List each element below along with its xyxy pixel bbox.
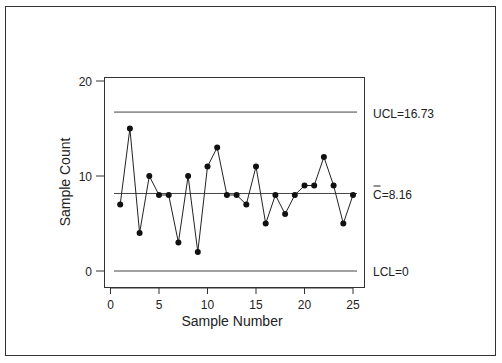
data-point [137, 230, 143, 236]
x-axis: 0510152025 [107, 288, 360, 312]
y-axis-label: Sample Count [57, 138, 73, 227]
data-point [146, 173, 152, 179]
ucl-label: UCL=16.73 [373, 107, 434, 121]
data-point [282, 211, 288, 217]
y-axis: 01020 [79, 75, 105, 279]
y-tick-label: 10 [79, 170, 93, 184]
data-point [321, 154, 327, 160]
x-tick-label: 10 [201, 298, 215, 312]
data-point [292, 192, 298, 198]
x-tick-label: 0 [107, 298, 114, 312]
x-tick-label: 25 [346, 298, 360, 312]
data-point [175, 240, 181, 246]
data-point [243, 202, 249, 208]
data-point [311, 183, 317, 189]
data-series [117, 126, 356, 256]
plot-area [105, 78, 365, 288]
data-point [156, 192, 162, 198]
x-tick-label: 20 [298, 298, 312, 312]
data-point [166, 192, 172, 198]
series-line [120, 129, 353, 253]
data-point [205, 164, 211, 170]
lcl-label: LCL=0 [373, 265, 409, 279]
data-point [272, 192, 278, 198]
data-point [127, 126, 133, 132]
control-chart: 01020 0510152025 Sample Count Sample Num… [0, 0, 502, 363]
data-point [214, 145, 220, 151]
data-point [263, 221, 269, 227]
data-point [195, 249, 201, 255]
x-tick-label: 5 [156, 298, 163, 312]
data-point [253, 164, 259, 170]
x-tick-label: 15 [249, 298, 263, 312]
cl-symbol: C [373, 188, 382, 202]
data-point [185, 173, 191, 179]
data-point [331, 183, 337, 189]
control-limit-lines [114, 112, 357, 271]
x-axis-label: Sample Number [181, 313, 282, 329]
data-point [234, 192, 240, 198]
cl-label: C=8.16 [373, 188, 412, 202]
data-point [340, 221, 346, 227]
y-tick-label: 20 [79, 75, 93, 89]
data-point [117, 202, 123, 208]
data-point [350, 192, 356, 198]
y-tick-label: 0 [85, 265, 92, 279]
data-point [302, 183, 308, 189]
data-point [224, 192, 230, 198]
cl-value: =8.16 [382, 188, 413, 202]
